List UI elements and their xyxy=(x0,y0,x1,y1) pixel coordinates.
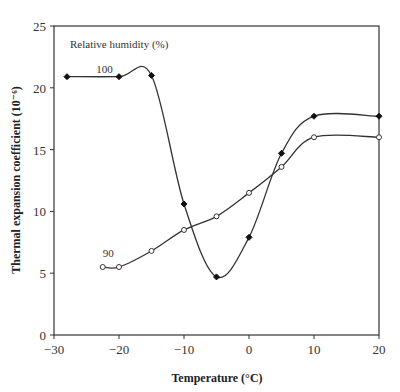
x-tick-label: −30 xyxy=(44,342,64,357)
x-tick-label: −20 xyxy=(109,342,129,357)
circle-marker xyxy=(182,227,187,232)
y-tick-label: 25 xyxy=(33,19,46,34)
x-tick-label: 10 xyxy=(308,342,321,357)
diamond-marker xyxy=(64,74,70,80)
x-tick-label: 20 xyxy=(373,342,386,357)
y-tick-label: 15 xyxy=(33,143,46,158)
circle-marker xyxy=(149,248,154,253)
y-axis-ticks: 0510152025 xyxy=(33,19,54,343)
diamond-marker xyxy=(246,234,252,240)
series-label: 100 xyxy=(96,63,113,75)
diamond-marker xyxy=(279,150,285,156)
diamond-marker xyxy=(376,113,382,119)
circle-marker xyxy=(247,190,252,195)
series-90 xyxy=(100,135,381,270)
series-line xyxy=(103,135,379,268)
y-tick-label: 20 xyxy=(33,81,46,96)
circle-marker xyxy=(100,265,105,270)
y-tick-label: 10 xyxy=(33,204,46,219)
diamond-marker xyxy=(149,72,155,78)
x-tick-label: −10 xyxy=(174,342,194,357)
circle-marker xyxy=(214,214,219,219)
diamond-marker xyxy=(116,74,122,80)
circle-marker xyxy=(117,265,122,270)
circle-marker xyxy=(377,135,382,140)
x-tick-label: 0 xyxy=(246,342,253,357)
x-axis-ticks: −30−20−1001020 xyxy=(44,335,386,357)
legend-title: Relative humidity (%) xyxy=(70,38,169,51)
series-label: 90 xyxy=(103,247,115,259)
y-axis-label: Thermal expansion coefficient (10⁻⁶) xyxy=(9,86,23,274)
circle-marker xyxy=(312,135,317,140)
series-line xyxy=(67,66,379,277)
thermal-expansion-chart: 0510152025 −30−20−1001020 Relative humid… xyxy=(0,0,400,392)
series-annotations: 10090 xyxy=(96,63,114,259)
y-tick-label: 0 xyxy=(40,328,47,343)
y-tick-label: 5 xyxy=(40,266,47,281)
x-axis-label: Temperature (°C) xyxy=(171,371,262,385)
diamond-marker xyxy=(181,201,187,207)
circle-marker xyxy=(279,164,284,169)
diamond-marker xyxy=(311,113,317,119)
